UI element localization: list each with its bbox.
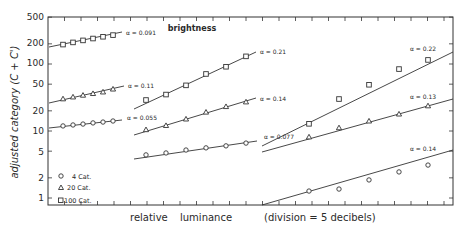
circle-marker-icon [204,146,208,150]
circle-marker-icon [244,141,248,145]
triangle-marker-icon [143,127,148,132]
x-axis-label-luminance: luminance [180,212,232,223]
y-tick-1: 1 [38,193,44,203]
circle-marker-icon [61,124,65,128]
chart: 500 200 100 50 20 10 5 2 1 adjusted cate… [0,0,459,236]
x-axis-label-division: (division = 5 decibels) [264,212,376,223]
annotation-p3-20cat: α = 0.13 [410,93,436,100]
circle-marker-icon [101,120,105,124]
fit-line-p3-4cat [262,150,453,205]
y-tick-labels: 500 200 100 50 20 10 5 2 1 [27,12,44,203]
square-marker-icon [71,40,76,45]
annotation-p2-20cat: α = 0.14 [260,95,286,102]
axis-ticks [48,17,453,205]
circle-marker-icon [307,189,311,193]
triangle-marker-icon [336,125,341,130]
square-marker-icon [144,98,149,103]
square-marker-icon [367,82,372,87]
square-marker-icon [184,83,189,88]
square-marker-icon [111,33,116,38]
legend-circle-icon [59,174,63,178]
circle-marker-icon [224,144,228,148]
square-marker-icon [426,58,431,63]
square-marker-icon [164,92,169,97]
triangle-marker-icon [366,118,371,123]
triangle-marker-icon [70,94,75,99]
circle-marker-icon [81,122,85,126]
x-axis-label-relative: relative [130,212,168,223]
triangle-marker-icon [60,96,65,101]
annotation-p1-4cat: α = 0.055 [127,114,157,121]
square-marker-icon [224,64,229,69]
annotation-p3-100cat: α = 0.22 [410,45,436,52]
legend-square-icon [59,198,64,203]
circle-marker-icon [164,151,168,155]
triangle-marker-icon [306,134,311,139]
annotation-p2-4cat: α = 0.077 [264,133,294,140]
circle-marker-icon [91,121,95,125]
legend-100-cat: 100 Cat. [64,197,92,205]
square-marker-icon [91,36,96,41]
legend-20-cat: 20 Cat. [67,184,90,192]
fit-line-p2-100cat [134,52,256,109]
square-marker-icon [81,38,86,43]
data-markers [60,33,430,193]
y-tick-50: 50 [33,79,45,89]
circle-marker-icon [144,153,148,157]
triangle-marker-icon [203,110,208,115]
fit-line-p2-4cat [134,141,257,159]
y-tick-5: 5 [38,147,44,157]
plot-frame [48,17,453,205]
y-tick-200: 200 [27,38,44,48]
circle-marker-icon [71,123,75,127]
circle-marker-icon [426,163,430,167]
circle-marker-icon [111,119,115,123]
legend-4-cat: 4 Cat. [72,173,91,181]
y-axis-label: adjusted category (C + C') [9,45,20,178]
circle-marker-icon [337,187,341,191]
square-marker-icon [101,34,106,39]
legend: 4 Cat. 20 Cat. 100 Cat. [59,173,92,205]
circle-marker-icon [397,170,401,174]
square-marker-icon [307,122,312,127]
annotation-p1-100cat: α = 0.091 [126,29,156,36]
chart-title: brightness [168,24,217,33]
y-tick-2: 2 [38,173,44,183]
square-marker-icon [397,67,402,72]
y-tick-20: 20 [33,106,45,116]
square-marker-icon [61,42,66,47]
circle-marker-icon [184,148,188,152]
annotation-p2-100cat: α = 0.21 [260,48,286,55]
annotation-p1-20cat: α = 0.11 [128,82,154,89]
y-tick-10: 10 [33,126,45,136]
square-marker-icon [337,97,342,102]
annotation-p3-4cat: α = 0.14 [410,145,436,152]
circle-marker-icon [367,178,371,182]
y-tick-500: 500 [27,12,44,22]
square-marker-icon [204,72,209,77]
fit-lines [49,32,453,205]
square-marker-icon [244,54,249,59]
y-tick-100: 100 [27,58,44,68]
legend-triangle-icon [59,185,64,190]
